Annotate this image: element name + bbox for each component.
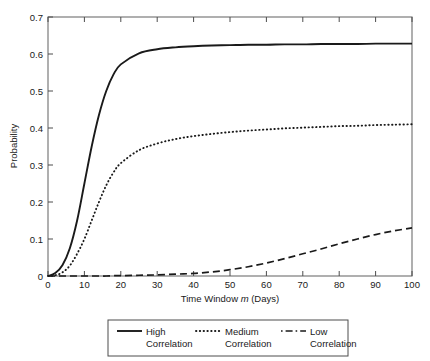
x-tick-label: 80 [334, 279, 345, 290]
x-tick-label: 40 [188, 279, 199, 290]
x-tick-label: 100 [404, 279, 420, 290]
y-tick-label: 0.6 [30, 49, 43, 60]
y-tick-label: 0.2 [30, 197, 43, 208]
x-tick-label: 20 [116, 279, 127, 290]
y-tick-label: 0.7 [30, 12, 43, 23]
y-tick-label: 0.5 [30, 86, 43, 97]
y-tick-label: 0.4 [30, 123, 43, 134]
legend-label-line1: High [146, 326, 166, 337]
y-tick-label: 0.3 [30, 160, 43, 171]
x-tick-label: 10 [79, 279, 90, 290]
legend-label-line2: Correlation [310, 338, 356, 349]
legend-label-line2: Correlation [146, 338, 192, 349]
x-tick-label: 70 [298, 279, 309, 290]
x-axis-title: Time Window m (Days) [181, 293, 279, 304]
x-tick-label: 90 [370, 279, 381, 290]
chart-legend: High Correlation Medium Correlation Low … [108, 320, 356, 356]
legend-label-line1: Medium [225, 326, 259, 337]
y-tick-label: 0 [38, 271, 43, 282]
x-tick-label: 60 [261, 279, 272, 290]
y-axis-title: Probability [8, 124, 19, 169]
legend-label-line1: Low [310, 326, 328, 337]
probability-vs-time-window-chart: 0 0.1 0.2 0.3 0.4 0.5 0.6 0.7 [0, 0, 430, 361]
legend-label-line2: Correlation [225, 338, 271, 349]
chart-background [0, 0, 430, 361]
x-tick-label: 50 [225, 279, 236, 290]
x-tick-label: 30 [152, 279, 163, 290]
x-tick-label: 0 [45, 279, 50, 290]
y-tick-label: 0.1 [30, 234, 43, 245]
